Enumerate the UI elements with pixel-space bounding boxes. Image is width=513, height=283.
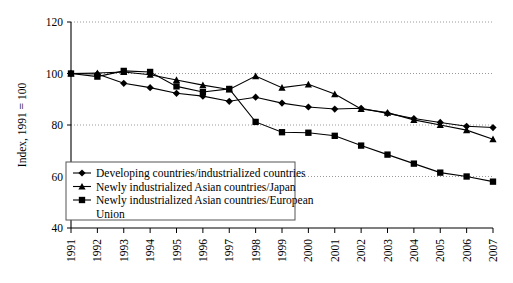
x-tick-label: 2000 [302,239,314,262]
data-point [489,136,496,143]
data-point [411,160,417,166]
y-axis-title-text: Index, 1991 = 100 [16,83,29,168]
legend-entry-label: Newly industrialized Asian countries/Jap… [96,181,296,194]
data-point [226,98,233,105]
data-point [489,124,496,131]
data-point [147,84,154,91]
x-tick-label: 2003 [382,239,394,262]
x-tick-label: 1994 [144,239,156,262]
x-tick-label: 2005 [434,239,446,262]
y-tick-label: 40 [52,222,64,234]
x-tick-label: 2004 [408,239,420,262]
series-diamond [67,70,496,131]
x-tick-label: 2001 [329,239,341,262]
data-point [384,151,390,157]
data-point [437,169,443,175]
data-point [252,72,259,79]
x-tick-label: 1998 [250,239,262,262]
x-tick-label: 2007 [487,239,499,262]
data-point [200,89,206,95]
x-tick-label: 1993 [118,239,130,262]
data-point [331,91,338,98]
data-point [331,105,338,112]
x-tick-label: 1995 [171,239,183,262]
x-tick-label: 1999 [276,239,288,262]
x-tick-label: 2006 [461,239,473,262]
data-point [94,73,100,79]
data-point [173,90,180,97]
data-point [305,130,311,136]
line-chart: 406080100120 199119921993199419951996199… [0,0,513,283]
data-point [120,80,127,87]
y-tick-label: 60 [52,171,64,183]
chart-legend: Developing countries/industrialized coun… [66,162,314,220]
data-point [358,142,364,148]
data-point [252,119,258,125]
data-point [332,133,338,139]
legend-marker-square [79,197,85,203]
chart-container: 406080100120 199119921993199419951996199… [0,0,513,283]
data-point [121,68,127,74]
y-tick-label: 80 [52,119,64,131]
x-tick-label: 1991 [65,239,77,262]
legend-entry-label: Developing countries/industrialized coun… [96,167,306,180]
gridlines [71,22,493,177]
x-tick-label: 1997 [223,239,235,262]
data-point [490,178,496,184]
y-tick-label: 100 [46,68,64,80]
data-point [173,83,179,89]
x-axis-ticks: 1991199219931994199519961997199819992000… [65,228,499,262]
data-point [305,81,312,88]
data-point [278,100,285,107]
data-point [226,86,232,92]
data-point [279,129,285,135]
data-point [252,94,259,101]
data-point [463,173,469,179]
x-tick-label: 2002 [355,239,367,262]
legend-entry-label: Union [96,208,125,220]
y-tick-label: 120 [46,16,64,28]
data-point [147,69,153,75]
legend-entry-label: Newly industrialized Asian countries/Eur… [96,194,314,207]
y-axis-title: Index, 1991 = 100 [16,83,29,168]
x-tick-label: 1992 [91,239,103,262]
data-point [305,103,312,110]
x-tick-label: 1996 [197,239,209,262]
data-point [68,70,74,76]
